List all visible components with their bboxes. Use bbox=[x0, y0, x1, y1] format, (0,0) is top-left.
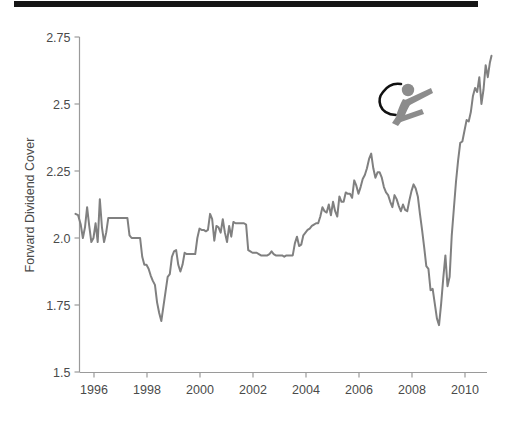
y-tick-label: 2.0 bbox=[53, 232, 70, 246]
x-tick-label: 1998 bbox=[133, 383, 161, 397]
x-tick-label: 2000 bbox=[186, 383, 214, 397]
y-axis-ticks bbox=[75, 37, 80, 372]
data-series-line bbox=[75, 56, 491, 325]
y-axis-title: Forward Dividend Cover bbox=[23, 138, 37, 273]
x-axis-ticks bbox=[94, 373, 465, 378]
x-tick-label: 2008 bbox=[398, 383, 426, 397]
x-tick-label: 2006 bbox=[345, 383, 373, 397]
y-tick-label: 2.25 bbox=[46, 165, 70, 179]
x-tick-label: 2004 bbox=[292, 383, 320, 397]
x-tick-label: 1996 bbox=[80, 383, 108, 397]
y-axis-tick-labels: 1.51.752.02.252.52.75 bbox=[46, 31, 70, 380]
y-tick-label: 2.5 bbox=[53, 98, 70, 112]
athlete-skier-figure-icon bbox=[380, 84, 433, 126]
y-tick-label: 1.5 bbox=[53, 366, 70, 380]
y-tick-label: 1.75 bbox=[46, 299, 70, 313]
x-axis-tick-labels: 19961998200020022004200620082010 bbox=[80, 383, 479, 397]
chart-figure: 1.51.752.02.252.52.75 199619982000200220… bbox=[0, 0, 507, 428]
x-tick-label: 2002 bbox=[239, 383, 267, 397]
line-chart: 1.51.752.02.252.52.75 199619982000200220… bbox=[0, 0, 507, 428]
y-tick-label: 2.75 bbox=[46, 31, 70, 45]
x-tick-label: 2010 bbox=[451, 383, 479, 397]
